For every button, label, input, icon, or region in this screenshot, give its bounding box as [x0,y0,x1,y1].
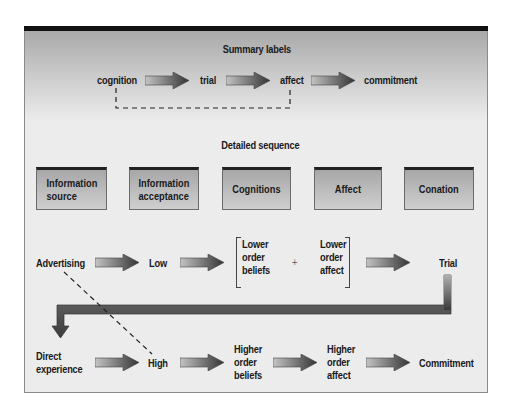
detailed-title: Detailed sequence [221,139,299,151]
low-source-advertising: Advertising [36,257,85,269]
higher-order-affect: Higher order affect [327,343,355,382]
box-conation: Conation [404,167,474,210]
low-involvement-label: Low [149,257,167,269]
high-involvement-label: High [148,357,168,369]
arrow-right-icon [366,254,410,271]
box-cognitions: Cognitions [222,167,291,210]
high-outcome-commitment: Commitment [419,357,474,369]
low-outcome-trial: Trial [439,257,457,269]
plus-sign: + [292,256,297,268]
dashed-connector [110,86,300,111]
arrow-right-icon [95,354,139,371]
arrow-right-icon [180,354,224,371]
summary-step-cognition: cognition [97,74,137,86]
arrow-right-icon [95,254,139,271]
summary-title: Summary labels [223,43,291,55]
box-information-acceptance: Information acceptance [129,167,199,210]
dashed-diagonal [60,270,160,360]
high-source-direct-experience: Direct experience [36,350,83,376]
box-information-source: Information source [36,167,107,210]
arrow-right-icon [273,354,317,371]
box-affect: Affect [314,167,382,210]
higher-order-beliefs: Higher order beliefs [234,343,262,382]
arrow-right-icon [366,354,410,371]
arrow-right-icon [311,72,355,89]
arrow-right-icon [180,254,224,271]
summary-step-commitment: commitment [364,74,417,86]
summary-step-affect: affect [280,74,304,86]
summary-step-trial: trial [200,74,216,86]
